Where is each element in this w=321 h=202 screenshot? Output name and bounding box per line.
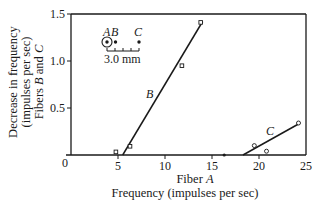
- series-b-fit-line: [123, 22, 203, 156]
- x-tick-label: 10: [159, 159, 171, 173]
- series-b: B: [114, 21, 203, 155]
- scale-bar: [107, 48, 139, 51]
- series-b-point: [180, 64, 184, 68]
- y-axis-title-line3: Fibers B and C: [32, 44, 46, 119]
- series-c-point: [265, 149, 269, 153]
- series-c-point: [297, 121, 301, 125]
- inset-label-b: B: [111, 25, 119, 39]
- y-axis-title-line1: Decrease in frequency: [6, 25, 20, 137]
- fiber-c-dot-icon: [137, 40, 140, 43]
- x-axis-title-line1: Fiber A: [176, 172, 214, 186]
- inset-label-c: C: [134, 25, 143, 39]
- x-tick-label: 5: [115, 159, 121, 173]
- series-b-point: [128, 145, 132, 149]
- y-tick-label: 0.5: [50, 101, 65, 115]
- series-b-label: B: [146, 87, 154, 101]
- x-axis-title-line2: Frequency (impulses per sec): [112, 186, 259, 200]
- scale-bar-label: 3.0 mm: [104, 52, 141, 66]
- series-c: C: [223, 121, 301, 157]
- fiber-a-dot-icon: [105, 40, 108, 43]
- chart: 1.5 1.0 0.5 0 5 10 15 20 25 Fiber A Freq…: [0, 0, 321, 202]
- y-axis-title: Decrease in frequency (impulses per sec)…: [6, 25, 46, 137]
- x-tick-label: 25: [300, 159, 312, 173]
- y-tick-labels: 1.5 1.0 0.5: [50, 7, 65, 115]
- y-tick-label: 1.0: [50, 54, 65, 68]
- series-b-point: [114, 150, 118, 154]
- x-tick-label: 15: [206, 159, 218, 173]
- inset-fiber-diagram: A B C 3.0 mm: [102, 25, 143, 66]
- series-c-label: C: [266, 124, 275, 138]
- fiber-b-dot-icon: [114, 40, 117, 43]
- y-axis-title-line2: (impulses per sec): [19, 37, 33, 128]
- series-b-point: [199, 21, 203, 25]
- x-tick-labels: 0 5 10 15 20 25: [62, 156, 312, 173]
- x-tick-label: 0: [62, 156, 68, 170]
- x-tick-label: 20: [253, 159, 265, 173]
- y-tick-label: 1.5: [50, 7, 65, 21]
- series-c-point: [223, 153, 226, 156]
- series-c-point: [252, 144, 256, 148]
